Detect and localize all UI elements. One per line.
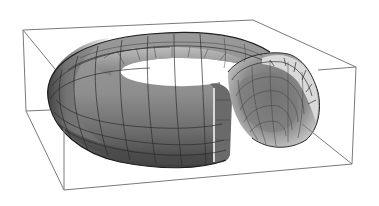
torus-plot — [0, 0, 379, 206]
torus-figure — [0, 0, 379, 206]
